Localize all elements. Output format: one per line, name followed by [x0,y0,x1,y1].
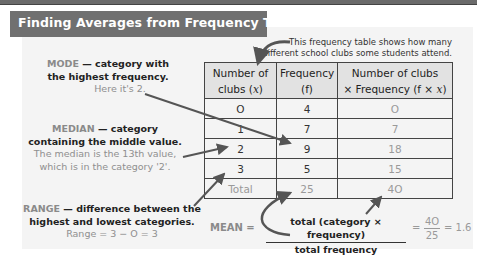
mode-definition-2: the highest frequency. [28,71,188,84]
cell-product: 7 [338,119,453,139]
mean-label: MEAN = [210,222,255,233]
table-description-note: This frequency table shows how many diff… [262,37,452,59]
cell-clubs: 2 [205,139,277,159]
table-row: 3 5 15 [205,159,453,179]
cell-product: 15 [338,159,453,179]
median-example-1: The median is the 13th value, [20,148,190,161]
range-keyword: RANGE [23,203,60,214]
range-definition-1: — difference between the [60,203,201,214]
mean-equals: = [412,222,420,233]
mode-definition-1: — category with [79,58,169,69]
top-band [0,0,477,5]
cell-total-label: Total [205,179,277,199]
mode-keyword: MODE [47,58,79,69]
mean-numerator: total (category × frequency) [266,215,406,243]
cell-product: 18 [338,139,453,159]
mode-explanation: MODE — category with the highest frequen… [28,58,188,96]
mean-result: = 1.6 [444,222,471,233]
header-number-of-clubs: Number of clubs (x) [205,63,277,99]
cell-total-product: 4O [338,179,453,199]
section-title-box: Finding Averages from Frequency Tables [10,11,267,37]
cell-clubs: O [205,99,277,119]
median-explanation: MEDIAN — category containing the middle … [20,123,190,173]
median-keyword: MEDIAN [52,123,95,134]
range-definition-2: highest and lowest categories. [22,216,202,229]
mean-value-fraction: 4O 25 [424,215,440,242]
cell-frequency: 9 [277,139,338,159]
mode-example: Here it's 2. [28,83,188,96]
table-header-row: Number of clubs (x) Frequency (f) Number… [205,63,453,99]
table-total-row: Total 25 4O [205,179,453,199]
table-row: 1 7 7 [205,119,453,139]
range-example: Range = 3 − O = 3 [22,228,202,241]
cell-clubs: 3 [205,159,277,179]
header-clubs-times-frequency: Number of clubs × Frequency (f × x) [338,63,453,99]
frequency-table: Number of clubs (x) Frequency (f) Number… [204,62,453,199]
median-definition-1: — category [95,123,158,134]
cell-frequency: 7 [277,119,338,139]
section-title: Finding Averages from Frequency Tables [18,15,308,30]
range-explanation: RANGE — difference between the highest a… [22,203,202,241]
cell-clubs: 1 [205,119,277,139]
mean-value-denominator: 25 [424,229,440,242]
mean-denominator: total frequency [266,243,406,256]
mean-fraction: total (category × frequency) total frequ… [266,215,406,256]
cell-frequency: 5 [277,159,338,179]
table-row: 2 9 18 [205,139,453,159]
cell-product: O [338,99,453,119]
median-example-2: which is in the category '2'. [20,161,190,174]
table-row: O 4 O [205,99,453,119]
mean-value-numerator: 4O [424,215,440,229]
median-definition-2: containing the middle value. [20,136,190,149]
cell-frequency: 4 [277,99,338,119]
note-line-2: different school clubs some students att… [262,48,452,59]
cell-total-frequency: 25 [277,179,338,199]
note-line-1: This frequency table shows how many [262,37,452,48]
header-frequency: Frequency (f) [277,63,338,99]
